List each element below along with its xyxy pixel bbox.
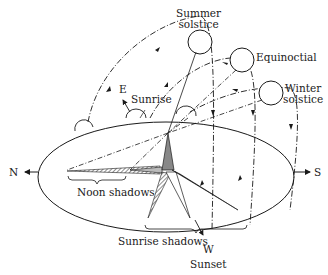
- sun-rays: [67, 52, 262, 170]
- noon-shadows-label: Noon shadows: [77, 187, 155, 198]
- summer-solstice-label: Summer solstice: [176, 8, 221, 30]
- east-arrow: [123, 100, 130, 112]
- winter-solstice-label: Winter solstice: [283, 83, 323, 105]
- summer-sun-icon: [188, 30, 212, 54]
- sunset-shadow-dark: [172, 170, 238, 210]
- noon-shadows-brace: [68, 176, 126, 184]
- north-label: N: [9, 167, 18, 178]
- west-label: W: [203, 244, 214, 255]
- south-label: S: [314, 167, 321, 178]
- sunrise-shadows-label: Sunrise shadows: [118, 236, 208, 247]
- winter-sun-icon: [259, 81, 283, 105]
- diagram-canvas: [0, 0, 328, 275]
- equinoctial-label: Equinoctial: [256, 52, 317, 63]
- equinoctial-sun-icon: [230, 48, 254, 72]
- sunrise-sun-summer-icon: [75, 120, 93, 131]
- east-label: E: [119, 84, 127, 95]
- gnomon: [162, 133, 174, 170]
- winter-solstice-label-line2: solstice: [283, 94, 323, 105]
- summer-solstice-label-line2: solstice: [176, 19, 221, 30]
- sunrise-sun-winter-icon: [176, 106, 196, 116]
- sunrise-label: Sunrise: [131, 94, 172, 105]
- sunset-label: Sunset: [190, 259, 227, 270]
- sun-path-diagram: Summer solstice Equinoctial Winter solst…: [0, 0, 328, 275]
